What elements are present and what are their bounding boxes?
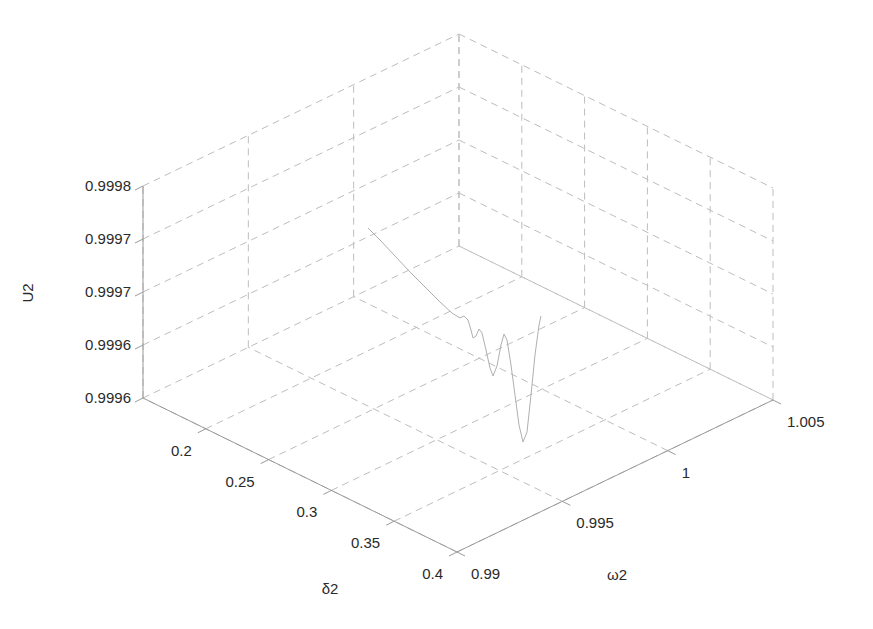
tick-label: 0.99	[471, 565, 500, 582]
tick-marks	[135, 186, 781, 556]
tick-label: 0.9998	[85, 177, 131, 194]
z-axis-label: U2	[19, 283, 36, 302]
tick-label: 0.3	[297, 503, 318, 520]
tick-label: 0.9996	[85, 336, 131, 353]
tick-label: 0.9996	[85, 389, 131, 406]
tick-label: 1	[682, 464, 690, 481]
tick-label: 0.9997	[85, 283, 131, 300]
data-curve	[368, 228, 541, 442]
tick-label: 0.4	[422, 565, 443, 582]
z-axis-tick-labels: 0.99960.99960.99970.99970.9998	[85, 177, 131, 406]
tick-label: 1.005	[787, 413, 825, 430]
delta-axis-label: δ2	[322, 580, 339, 597]
tick-label: 0.35	[351, 534, 380, 551]
delta-axis-tick-labels: 0.20.250.30.350.4	[171, 442, 443, 582]
omega-axis-label: ω2	[607, 566, 627, 583]
3d-line-plot: 0.99960.99960.99970.99970.9998 0.20.250.…	[0, 0, 873, 629]
tick-label: 0.25	[225, 473, 254, 490]
tick-label: 0.9997	[85, 230, 131, 247]
tick-label: 0.2	[171, 442, 192, 459]
tick-label: 0.995	[576, 514, 614, 531]
